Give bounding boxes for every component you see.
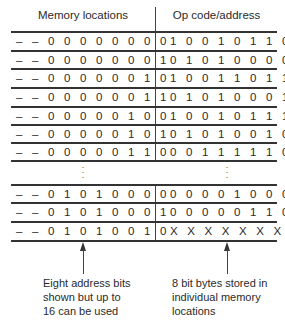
- contents-cell: 0 1 0 1 0 0 1 0: [170, 125, 285, 143]
- contents-cell: 0 0 0 0 1 0 0 0: [170, 185, 285, 203]
- address-cell: – – 0 0 0 0 0 1 0 0: [16, 107, 170, 125]
- annotation-line: locations: [172, 304, 267, 318]
- memory-locations-header: Memory locations: [11, 9, 155, 21]
- ellipsis-right: ···: [222, 165, 232, 180]
- address-cell: – – 0 0 0 0 0 0 0 0: [16, 32, 170, 50]
- annotation-address-bits: Eight address bits shown but up to 16 ca…: [43, 276, 130, 318]
- ellipsis-left: ···: [78, 165, 88, 180]
- address-cell: – – 0 1 0 1 0 0 0 1: [16, 203, 170, 221]
- contents-cell: 1 0 0 1 0 1 1 1: [170, 107, 285, 125]
- arrow-shaft-right: [227, 249, 228, 274]
- contents-cell: 0 0 1 1 1 1 1 0: [170, 143, 285, 161]
- address-cell: – – 0 0 0 0 0 0 1 0: [16, 69, 170, 87]
- annotation-line: 16 can be used: [43, 304, 130, 318]
- annotation-line: shown but up to: [43, 290, 130, 304]
- address-cell: – – 0 1 0 1 0 0 0 0: [16, 185, 170, 203]
- contents-cell: 0 1 0 1 0 0 0 0: [170, 51, 285, 69]
- annotation-line: individual memory: [172, 290, 267, 304]
- annotation-line: 8 bit bytes stored in: [172, 276, 267, 290]
- contents-cell: 1 0 0 1 1 0 1 1: [170, 69, 285, 87]
- address-cell: – – 0 0 0 0 0 1 1 0: [16, 143, 170, 161]
- arrow-shaft-left: [83, 249, 84, 274]
- contents-cell: X X X X X X X X: [170, 222, 285, 240]
- annotation-bytes-stored: 8 bit bytes stored in individual memory …: [172, 276, 267, 318]
- address-cell: – – 0 0 0 0 0 0 1 1: [16, 88, 170, 106]
- contents-cell: 0 1 0 1 0 0 0 1: [170, 88, 285, 106]
- address-cell: – – 0 1 0 1 0 0 1 0: [16, 222, 170, 240]
- annotation-line: Eight address bits: [43, 276, 130, 290]
- address-cell: – – 0 0 0 0 0 0 0 1: [16, 51, 170, 69]
- contents-cell: 0 0 0 0 0 1 1 0: [170, 203, 285, 221]
- op-code-address-header: Op code/address: [156, 9, 277, 21]
- row-divider: [11, 240, 277, 242]
- contents-cell: 1 0 0 1 0 1 1 0: [170, 32, 285, 50]
- address-cell: – – 0 0 0 0 0 1 0 1: [16, 125, 170, 143]
